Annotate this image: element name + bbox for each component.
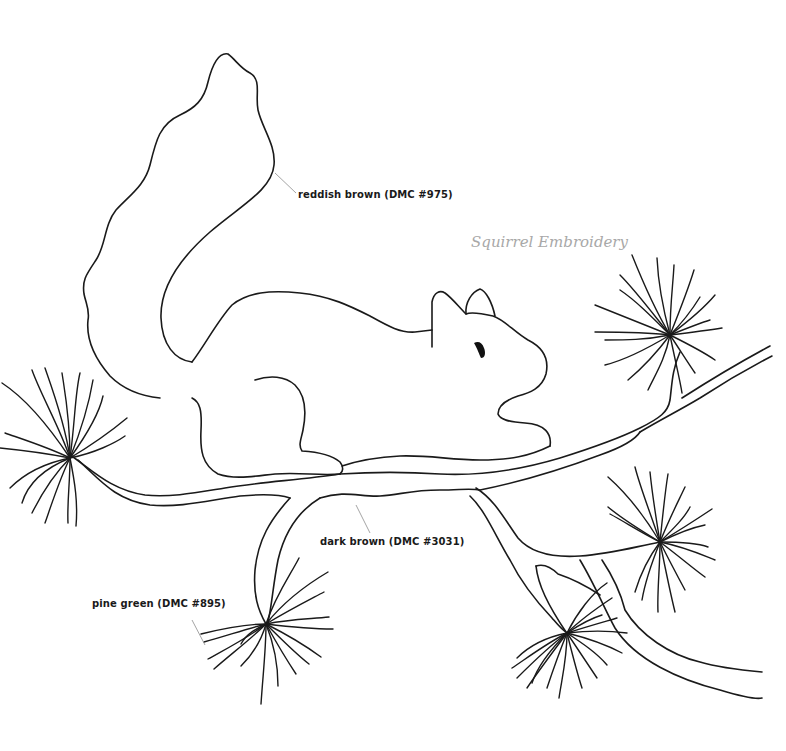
leader-tail: [275, 173, 296, 193]
branch-left-twig: [255, 498, 290, 624]
branch-top-edge: [70, 352, 680, 496]
pine-cluster-upper-right: [595, 255, 722, 393]
pine-cluster-middle-right: [608, 467, 715, 612]
label-dark-brown: dark brown (DMC #3031): [320, 536, 464, 547]
squirrel-head: [432, 292, 550, 446]
branch-underside: [320, 432, 640, 498]
leader-needles: [192, 620, 205, 645]
branch-lower-fork: [476, 488, 660, 556]
squirrel-eye: [474, 342, 485, 358]
squirrel: [84, 54, 551, 477]
label-reddish-brown: reddish brown (DMC #975): [298, 189, 453, 200]
leader-branch: [356, 505, 370, 533]
branch: [70, 346, 772, 699]
pine-cluster-left: [0, 368, 127, 526]
branch-right-twig: [682, 346, 770, 398]
pine-cluster-lower-center: [512, 583, 627, 698]
squirrel-tail: [84, 54, 275, 398]
squirrel-hind-leg: [255, 377, 343, 474]
branch-lower-right-limb: [602, 560, 762, 672]
pattern-title: Squirrel Embroidery: [471, 233, 628, 251]
pine-cluster-lower-left: [201, 558, 333, 704]
squirrel-belly: [342, 446, 550, 466]
squirrel-haunch: [192, 398, 340, 477]
squirrel-ear: [466, 289, 495, 316]
branch-lower-fork-left: [470, 496, 566, 632]
label-pine-green: pine green (DMC #895): [92, 598, 226, 609]
squirrel-back: [192, 292, 432, 362]
embroidery-pattern: [0, 0, 786, 751]
branch-lower-right-limb-bottom: [580, 560, 762, 699]
